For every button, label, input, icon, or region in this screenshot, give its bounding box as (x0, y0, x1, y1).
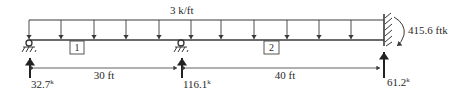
dimension-span-1: 30 ft (34, 68, 177, 81)
span-1-label: 1 (70, 41, 84, 54)
distributed-load: 3 k/ft (29, 4, 384, 39)
beam-diagram: 3 k/ft 415.6 ftk 1 (0, 0, 467, 104)
svg-text:30 ft: 30 ft (94, 69, 114, 81)
moment-arrow-icon (394, 17, 404, 46)
reaction-label-2: 116.1k (183, 78, 211, 90)
load-label: 3 k/ft (170, 4, 194, 16)
load-arrows (29, 20, 351, 39)
span-2-label: 2 (264, 41, 279, 54)
dimension-span-2: 40 ft (186, 68, 380, 81)
fixed-support-icon (384, 13, 392, 46)
reaction-label-3: 61.2k (387, 76, 410, 88)
svg-text:2: 2 (269, 42, 274, 53)
svg-text:40 ft: 40 ft (275, 69, 295, 81)
pin-support-icon (22, 40, 36, 52)
reaction-label-1: 32.7k (31, 78, 54, 90)
moment-label: 415.6 ftk (408, 24, 448, 36)
svg-text:1: 1 (75, 42, 80, 53)
roller-support-icon (174, 40, 188, 52)
